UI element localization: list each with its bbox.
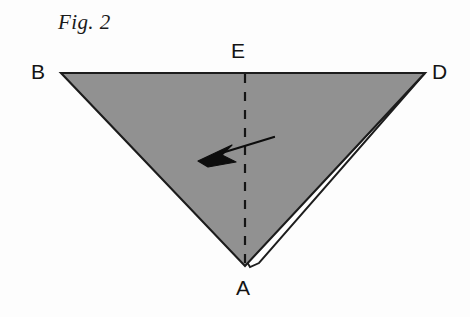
- figure-container: Fig. 2 B E D A: [0, 0, 470, 317]
- vertex-label-a: A: [236, 277, 250, 298]
- triangle-shape: [61, 73, 425, 266]
- figure-caption: Fig. 2: [58, 10, 111, 35]
- vertex-label-d: D: [432, 61, 447, 82]
- vertex-label-e: E: [231, 40, 245, 61]
- vertex-label-b: B: [31, 61, 45, 82]
